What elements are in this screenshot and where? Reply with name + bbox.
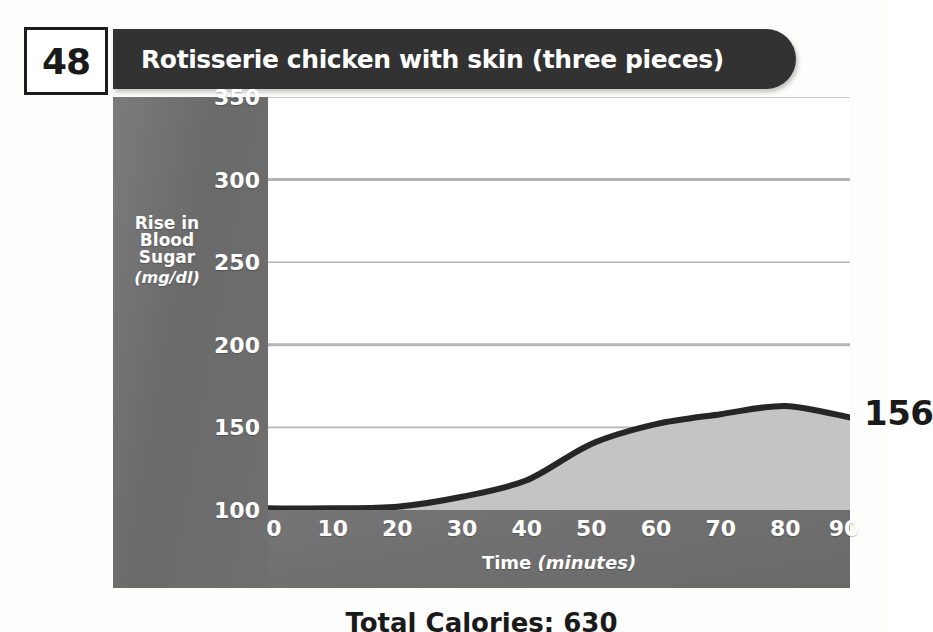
chart-title: Rotisserie chicken with skin (three piec… <box>141 45 724 74</box>
x-axis-panel: Time (minutes) 0102030405060708090 <box>268 510 850 588</box>
x-axis-tick: 70 <box>705 516 736 541</box>
x-axis-tick: 0 <box>266 516 281 541</box>
chart-title-bar: Rotisserie chicken with skin (three piec… <box>113 29 796 89</box>
x-axis-units: (minutes) <box>538 552 637 573</box>
end-value-callout: 156 <box>864 393 933 433</box>
x-axis-tick: 10 <box>317 516 348 541</box>
page-number: 48 <box>42 41 90 82</box>
y-axis-panel: Rise in Blood Sugar (mg/dl) 100150200250… <box>113 97 268 588</box>
y-axis-tick: 150 <box>214 415 260 440</box>
y-axis-tick: 300 <box>214 167 260 192</box>
x-axis-label-text: Time <box>482 552 531 573</box>
x-axis-tick: 50 <box>576 516 607 541</box>
page-number-badge: 48 <box>24 27 108 95</box>
x-axis-tick: 20 <box>382 516 413 541</box>
y-axis-tick: 250 <box>214 250 260 275</box>
y-axis-units: (mg/dl) <box>119 270 215 286</box>
blood-sugar-area-chart <box>268 97 850 510</box>
x-axis-tick: 30 <box>447 516 478 541</box>
x-axis-label: Time (minutes) <box>268 552 850 573</box>
y-axis-label-text: Rise in Blood Sugar <box>135 213 199 267</box>
y-axis-label: Rise in Blood Sugar (mg/dl) <box>119 215 215 286</box>
x-axis-tick: 40 <box>511 516 542 541</box>
x-axis-tick: 90 <box>829 516 860 541</box>
gridlines <box>268 97 850 427</box>
y-axis-tick: 100 <box>214 498 260 523</box>
chart-container: Rise in Blood Sugar (mg/dl) 100150200250… <box>113 97 850 588</box>
area-fill-path <box>268 406 850 510</box>
x-axis-tick: 60 <box>641 516 672 541</box>
y-axis-tick: 350 <box>214 85 260 110</box>
plot-area <box>268 97 850 510</box>
y-axis-tick: 200 <box>214 332 260 357</box>
x-axis-tick: 80 <box>770 516 801 541</box>
total-calories-caption: Total Calories: 630 <box>113 608 850 632</box>
